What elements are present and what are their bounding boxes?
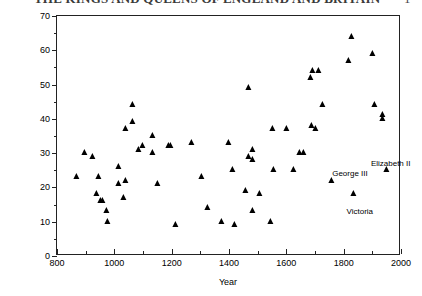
data-point (346, 56, 352, 62)
x-minor-tick (372, 251, 373, 254)
data-point (268, 218, 274, 224)
data-point (189, 139, 195, 145)
x-tick (114, 249, 115, 254)
data-point (104, 207, 110, 213)
x-tick-label: 2000 (391, 259, 411, 268)
data-point (139, 142, 145, 148)
y-tick-label: 40 (40, 114, 50, 123)
y-tick-label: 50 (40, 80, 50, 89)
data-point (95, 173, 101, 179)
x-minor-tick (143, 251, 144, 254)
data-point (115, 180, 121, 186)
y-tick (52, 153, 57, 154)
data-point (168, 142, 174, 148)
data-point (149, 149, 155, 155)
y-minor-tick (54, 239, 57, 240)
x-tick-label: 800 (49, 259, 64, 268)
x-tick (229, 249, 230, 254)
y-minor-tick (54, 170, 57, 171)
y-tick (52, 222, 57, 223)
data-point (229, 166, 235, 172)
data-point (245, 84, 251, 90)
data-point (232, 221, 238, 227)
x-tick-label: 1000 (104, 259, 124, 268)
data-point (250, 156, 256, 162)
y-minor-tick (54, 33, 57, 34)
data-point (369, 50, 375, 56)
data-point (249, 146, 255, 152)
data-point (155, 180, 161, 186)
point-annotation: George III (332, 170, 368, 178)
page-corner-bleed-text: 1 (404, 0, 418, 5)
x-minor-tick (258, 251, 259, 254)
x-minor-tick (200, 251, 201, 254)
data-point (312, 125, 318, 131)
data-point (99, 197, 105, 203)
x-axis-title: Year (56, 277, 400, 287)
data-point (93, 190, 99, 196)
y-tick (52, 187, 57, 188)
scatter-chart-figure: THE KINGS AND QUEENS OF ENGLAND AND BRIT… (0, 0, 422, 296)
data-point (351, 190, 357, 196)
data-point (199, 173, 205, 179)
y-tick (52, 50, 57, 51)
point-annotation: Victoria (347, 208, 374, 216)
data-point (284, 125, 290, 131)
data-point (379, 111, 385, 117)
data-point (173, 221, 179, 227)
data-point (74, 173, 80, 179)
data-point (307, 74, 313, 80)
data-point (249, 207, 255, 213)
x-tick-label: 1600 (276, 259, 296, 268)
x-tick (286, 249, 287, 254)
y-tick-label: 20 (40, 183, 50, 192)
data-point (243, 187, 249, 193)
data-point (269, 125, 275, 131)
data-point (372, 101, 378, 107)
data-point (290, 166, 296, 172)
data-point (122, 176, 128, 182)
x-tick (401, 249, 402, 254)
y-minor-tick (54, 67, 57, 68)
point-annotation: Elizabeth II (371, 160, 411, 168)
page-title-bleed-text: THE KINGS AND QUEENS OF ENGLAND AND BRIT… (34, 0, 390, 6)
data-point (149, 132, 155, 138)
data-point (219, 218, 225, 224)
data-point (115, 163, 121, 169)
data-point (271, 166, 277, 172)
data-point (349, 32, 355, 38)
data-point (225, 139, 231, 145)
y-tick-label: 10 (40, 217, 50, 226)
data-point (130, 118, 136, 124)
data-point (300, 149, 306, 155)
y-tick (52, 85, 57, 86)
data-point (130, 101, 136, 107)
y-minor-tick (54, 205, 57, 206)
data-point (257, 190, 263, 196)
x-minor-tick (315, 251, 316, 254)
x-tick (344, 249, 345, 254)
y-tick-label: 70 (40, 12, 50, 21)
x-tick-label: 1400 (219, 259, 239, 268)
y-tick-label: 30 (40, 149, 50, 158)
data-point (104, 218, 110, 224)
y-tick (52, 256, 57, 257)
data-point (82, 149, 88, 155)
data-point (204, 204, 210, 210)
plot-area: 0102030405060708001000120014001600180020… (56, 15, 400, 255)
x-tick-label: 1800 (334, 259, 354, 268)
data-point (319, 101, 325, 107)
y-tick (52, 16, 57, 17)
page-corner-bleed: 1 (404, 0, 418, 5)
x-tick (57, 249, 58, 254)
x-tick (172, 249, 173, 254)
x-minor-tick (86, 251, 87, 254)
y-minor-tick (54, 102, 57, 103)
y-tick (52, 119, 57, 120)
page-title-bleed: THE KINGS AND QUEENS OF ENGLAND AND BRIT… (34, 0, 390, 6)
data-point (121, 194, 127, 200)
y-minor-tick (54, 136, 57, 137)
data-point (89, 152, 95, 158)
data-point (123, 125, 129, 131)
x-tick-label: 1200 (162, 259, 182, 268)
